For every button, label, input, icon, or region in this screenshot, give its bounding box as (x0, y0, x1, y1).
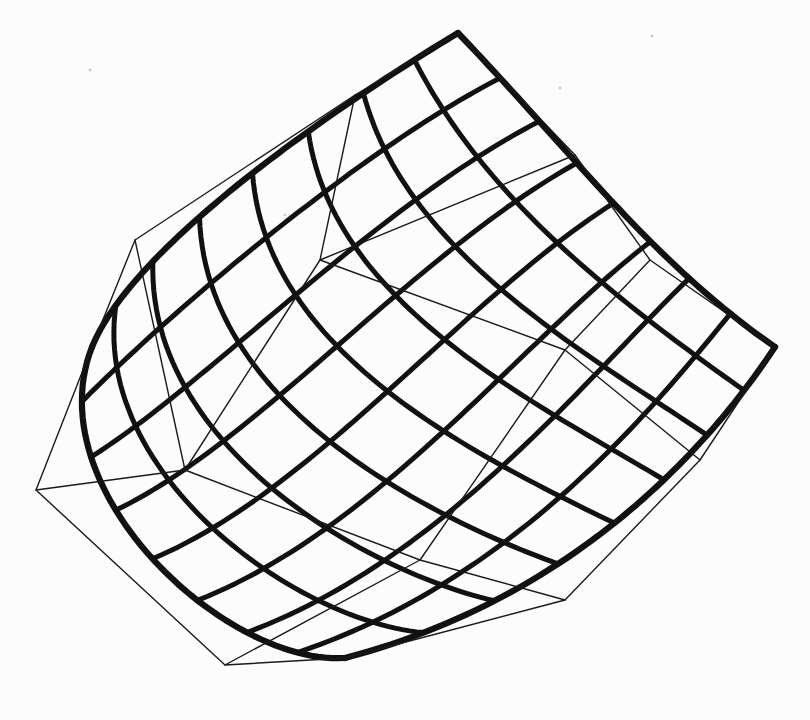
scan-speck (559, 87, 562, 90)
scan-speck (284, 214, 287, 217)
bezier-patch-figure (0, 0, 810, 720)
scan-speck (651, 35, 654, 38)
figure-canvas (0, 0, 810, 720)
scan-speck (89, 69, 92, 72)
